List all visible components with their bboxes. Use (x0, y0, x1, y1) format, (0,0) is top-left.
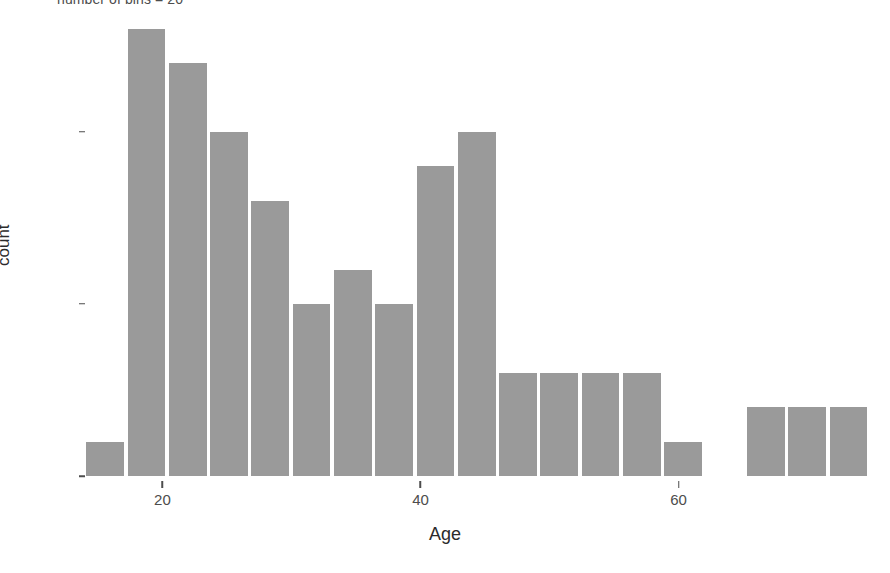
plot-panel (85, 8, 885, 476)
histogram-bar (623, 373, 661, 476)
histogram-bar (169, 63, 207, 476)
x-axis-tick-mark (420, 481, 422, 488)
histogram-bar (830, 407, 868, 476)
histogram-bar (334, 270, 372, 476)
histogram-bar (540, 373, 578, 476)
plot-title: number of bins = 20 (57, 0, 183, 7)
histogram-bar (210, 132, 248, 476)
histogram-bar (293, 304, 331, 476)
x-axis-title: Age (0, 524, 890, 545)
histogram-bar (747, 407, 785, 476)
y-axis-title: count (0, 224, 14, 266)
x-axis-tick-label: 20 (154, 491, 171, 508)
histogram-figure: number of bins = 20 count 0510 204060 Ag… (0, 0, 890, 573)
histogram-bars (85, 8, 885, 476)
histogram-bar (582, 373, 620, 476)
histogram-bar (86, 442, 124, 476)
histogram-bar (128, 29, 166, 476)
histogram-bar (251, 201, 289, 476)
x-axis-tick-mark (162, 481, 164, 488)
histogram-bar (417, 166, 455, 476)
x-axis-tick-mark (678, 481, 680, 488)
x-axis-tick-label: 40 (412, 491, 429, 508)
histogram-bar (664, 442, 702, 476)
histogram-bar (499, 373, 537, 476)
histogram-bar (788, 407, 826, 476)
x-axis-tick-label: 60 (670, 491, 687, 508)
histogram-bar (375, 304, 413, 476)
histogram-bar (458, 132, 496, 476)
